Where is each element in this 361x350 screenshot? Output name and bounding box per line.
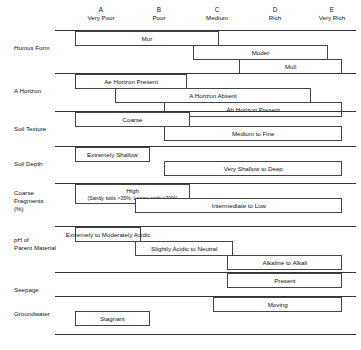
category-bar: A Horizon Absent bbox=[115, 88, 311, 103]
column-name: Poor bbox=[134, 14, 184, 22]
column-letter: B bbox=[134, 6, 184, 14]
bar-label: Alkaline to Alkali bbox=[263, 259, 308, 266]
row-label: Soil Depth bbox=[14, 160, 43, 168]
column-name: Rich bbox=[250, 14, 300, 22]
column-name: Very Poor bbox=[76, 14, 126, 22]
column-header-C: C Medium bbox=[192, 6, 242, 21]
row-label: pH of Parent Material bbox=[14, 236, 56, 252]
category-bar: Coarse bbox=[75, 112, 190, 127]
bar-label: Mor bbox=[142, 35, 153, 42]
category-bar: Mull bbox=[239, 59, 343, 74]
row-label: Groundwater bbox=[14, 310, 50, 318]
category-bar: Extremely to Moderately Acidic bbox=[75, 227, 141, 242]
row-label: Soil Texture bbox=[14, 125, 46, 133]
category-bar: Very Shallow to Deep bbox=[164, 161, 342, 176]
bar-label: Ah Horizon Present bbox=[226, 106, 280, 113]
category-bar: Moder bbox=[193, 45, 328, 60]
bar-label: Extremely Shallow bbox=[87, 151, 138, 158]
bar-label: High bbox=[126, 187, 139, 194]
column-header-E: E Very Rich bbox=[307, 6, 357, 21]
bar-label: Ae Horizon Present bbox=[104, 78, 158, 85]
bar-label: Mull bbox=[285, 63, 296, 70]
bar-label: Stagnant bbox=[100, 315, 125, 322]
row-label: A Horizon bbox=[14, 87, 41, 95]
bar-label: Very Shallow to Deep bbox=[224, 165, 283, 172]
row-label: Seepage bbox=[14, 286, 39, 294]
column-name: Medium bbox=[192, 14, 242, 22]
category-bar: Extremely Shallow bbox=[75, 147, 150, 162]
category-bar: Present bbox=[227, 273, 342, 288]
category-bar: Medium to Fine bbox=[164, 126, 342, 141]
row-label: Humus Form bbox=[14, 44, 50, 52]
bar-label: Extremely to Moderately Acidic bbox=[66, 231, 151, 238]
category-bar: Stagnant bbox=[75, 311, 150, 326]
column-letter: C bbox=[192, 6, 242, 14]
column-header-B: B Poor bbox=[134, 6, 184, 21]
column-header-A: A Very Poor bbox=[76, 6, 126, 21]
column-letter: E bbox=[307, 6, 357, 14]
bar-label: Slightly Acidic to Neutral bbox=[151, 245, 217, 252]
category-bar: Moving bbox=[213, 297, 342, 312]
bar-label: A Horizon Absent bbox=[189, 92, 236, 99]
bar-label: Moder bbox=[252, 49, 270, 56]
soil-nutrient-regime-diagram: A Very Poor B Poor C Medium D Rich E Ver… bbox=[0, 0, 361, 350]
bar-label: Intermediate to Low bbox=[212, 202, 266, 209]
category-bar: Intermediate to Low bbox=[135, 198, 342, 213]
column-letter: D bbox=[250, 6, 300, 14]
row-label: Coarse Fragments (%) bbox=[14, 189, 44, 212]
row-separator bbox=[55, 334, 356, 335]
category-bar: Ae Horizon Present bbox=[75, 74, 187, 89]
category-bar: Slightly Acidic to Neutral bbox=[135, 241, 233, 256]
bar-label: Medium to Fine bbox=[232, 130, 275, 137]
category-bar: Ah Horizon Present bbox=[164, 102, 342, 117]
bar-label: Moving bbox=[268, 301, 288, 308]
column-header-D: D Rich bbox=[250, 6, 300, 21]
category-bar: Alkaline to Alkali bbox=[227, 255, 342, 270]
bar-label: Present bbox=[274, 277, 295, 284]
category-bar: Mor bbox=[75, 31, 219, 46]
column-name: Very Rich bbox=[307, 14, 357, 22]
bar-label: Coarse bbox=[123, 116, 143, 123]
column-letter: A bbox=[76, 6, 126, 14]
